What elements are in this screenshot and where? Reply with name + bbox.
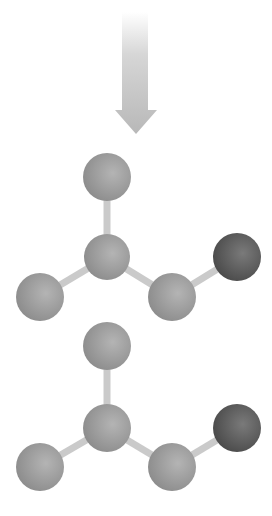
atom-left-icon <box>16 273 64 321</box>
atom-right-middle-icon <box>148 273 196 321</box>
reaction-arrow-icon <box>115 12 157 134</box>
atom-right-middle-icon <box>148 443 196 491</box>
molecule-caption <box>0 508 272 516</box>
molecule-1 <box>16 153 261 321</box>
atom-top-icon <box>83 153 131 201</box>
atom-top-icon <box>83 322 131 370</box>
molecule-2 <box>16 322 261 491</box>
reaction-diagram <box>0 0 272 516</box>
atom-left-icon <box>16 443 64 491</box>
atom-right-dark-icon <box>213 404 261 452</box>
atom-right-dark-icon <box>213 233 261 281</box>
atom-center-icon <box>83 404 131 452</box>
atom-center-icon <box>84 234 130 280</box>
